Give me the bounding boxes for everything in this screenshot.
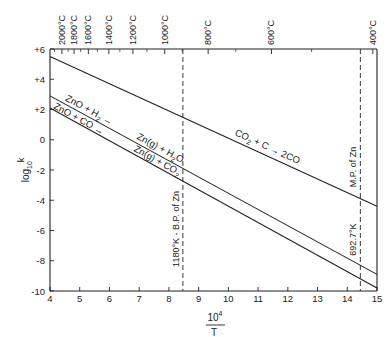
top-tick-label: 1000°C xyxy=(160,14,170,45)
x-tick-label: 15 xyxy=(372,293,383,304)
svg-text:104: 104 xyxy=(207,310,222,323)
y-tick-label: -2 xyxy=(37,165,45,176)
x-tick-label: 12 xyxy=(283,293,294,304)
x-tick-label: 10 xyxy=(223,293,234,304)
melting-point-label: M.P. of Zn xyxy=(348,147,358,187)
top-tick-label: 1800°C xyxy=(69,14,79,45)
x-tick-label: 4 xyxy=(47,293,52,304)
y-axis-title-main: log xyxy=(20,169,31,182)
y-axis-title-k: k xyxy=(16,157,26,162)
x-tick-label: 8 xyxy=(166,293,171,304)
top-tick-label: 1200°C xyxy=(128,14,138,45)
y-tick-label: +6 xyxy=(34,44,45,55)
y-tick-label: +2 xyxy=(34,104,45,115)
chart: 2000°C1800°C1600°C1400°C1200°C1000°C800°… xyxy=(0,0,390,337)
top-tick-label: 600°C xyxy=(266,19,276,45)
x-tick-label: 6 xyxy=(107,293,112,304)
x-tick-label: 5 xyxy=(77,293,82,304)
boiling-point-label: 1180°K - B.P. of Zn xyxy=(171,191,181,267)
data-series xyxy=(50,57,377,288)
y-tick-label: -10 xyxy=(31,286,45,297)
top-tick-label: 800°C xyxy=(203,19,213,45)
y-tick-label: +4 xyxy=(34,74,45,85)
y-tick-label: -6 xyxy=(37,225,45,236)
y-axis-title-sub: 10 xyxy=(26,161,33,169)
svg-text:log10k: log10k xyxy=(16,157,33,182)
x-tick-label: 11 xyxy=(253,293,263,304)
melting-point-temp-label: 692.7°K xyxy=(348,224,358,256)
y-axis: +6+4+20-2-4-6-8-10 xyxy=(31,44,54,297)
y-axis-title: log10k xyxy=(16,157,33,182)
label-co2-c: CO2 + C → 2CO xyxy=(233,127,302,168)
x-axis-title-numerator: 10 xyxy=(207,312,219,323)
x-axis-title-exponent: 4 xyxy=(219,310,223,317)
x-tick-label: 13 xyxy=(312,293,323,304)
top-tick-label: 1400°C xyxy=(104,14,114,45)
x-axis: 456789101112131415 xyxy=(47,287,382,304)
y-tick-label: 0 xyxy=(40,134,45,145)
series-labels: CO2 + C → 2COZnO + H2 →Zn(g) + H2OZnO + … xyxy=(52,92,302,179)
reference-lines: 1180°K - B.P. of ZnM.P. of Zn692.7°K xyxy=(171,49,360,291)
top-tick-label: 2000°C xyxy=(57,14,67,45)
x-axis-title-denominator: T xyxy=(211,327,217,337)
plot-frame xyxy=(50,49,377,291)
x-tick-label: 14 xyxy=(342,293,353,304)
y-tick-label: -8 xyxy=(37,255,45,266)
x-axis-title: 104 T xyxy=(206,310,225,337)
x-tick-label: 7 xyxy=(137,293,142,304)
top-tick-label: 1600°C xyxy=(83,14,93,45)
top-axis-celsius: 2000°C1800°C1600°C1400°C1200°C1000°C800°… xyxy=(54,14,377,54)
top-tick-label: 400°C xyxy=(368,19,378,45)
x-tick-label: 9 xyxy=(196,293,201,304)
y-tick-label: -4 xyxy=(37,195,45,206)
